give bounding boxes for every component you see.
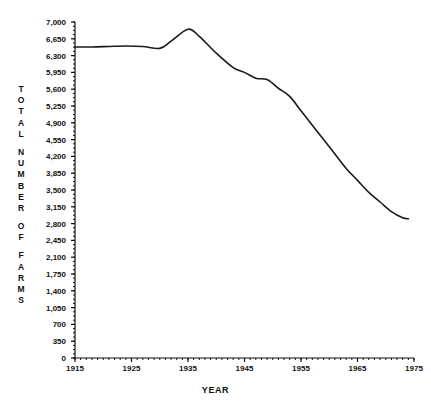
y-axis-ticks bbox=[71, 22, 75, 358]
farms-line-chart-figure: TOTALNUMBEROFFARMS 03507001,0501,4001,75… bbox=[0, 0, 431, 408]
chart-plot-area bbox=[0, 0, 431, 408]
x-axis-title: YEAR bbox=[0, 385, 431, 395]
x-axis-ticks bbox=[75, 358, 414, 362]
data-series-line bbox=[75, 29, 408, 219]
